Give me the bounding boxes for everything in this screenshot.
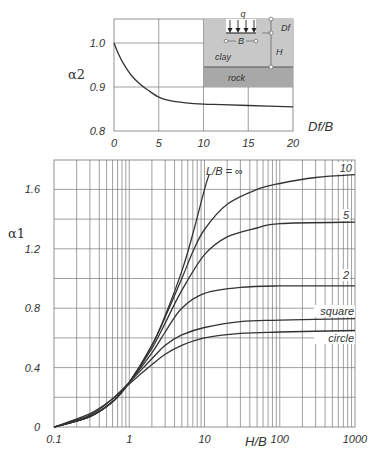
- inset-label-width: B: [238, 36, 244, 46]
- svg-text:10: 10: [197, 137, 210, 149]
- curve-label: 2: [342, 269, 349, 281]
- curve-label: circle: [328, 332, 354, 344]
- svg-text:0.1: 0.1: [46, 433, 61, 445]
- svg-text:1.6: 1.6: [25, 183, 41, 195]
- inset-label-soil: clay: [215, 52, 232, 62]
- svg-text:10: 10: [198, 433, 211, 445]
- inset-label-thickness: H: [276, 47, 283, 57]
- curve-label: 5: [343, 209, 350, 221]
- curve-label: L/B = ∞: [206, 165, 243, 177]
- svg-text:15: 15: [242, 137, 255, 149]
- curve-label: square: [320, 305, 354, 317]
- foundation-inset-diagram: B q Df H clay rock: [204, 9, 293, 87]
- alpha2-xlabel: Df/B: [308, 119, 334, 134]
- alpha1-ylabel: α1: [8, 226, 25, 241]
- svg-text:20: 20: [286, 137, 300, 149]
- alpha2-chart: B q Df H clay rock 051015200.80.91.0 α2 …: [68, 9, 334, 149]
- alpha1-chart: L/B = ∞1052squarecircle 0.1110100100000.…: [8, 160, 368, 449]
- svg-text:0.9: 0.9: [90, 81, 105, 93]
- inset-label-base: rock: [228, 73, 246, 83]
- figure: B q Df H clay rock 051015200.80.91.0 α2 …: [0, 0, 380, 461]
- inset-label-load: q: [240, 9, 245, 19]
- curve-label: 10: [340, 162, 353, 174]
- svg-text:0.8: 0.8: [25, 302, 41, 314]
- inset-label-depth: Df: [281, 23, 291, 33]
- alpha2-ylabel: α2: [68, 67, 85, 82]
- svg-text:1.0: 1.0: [90, 37, 106, 49]
- svg-text:100: 100: [271, 433, 290, 445]
- svg-text:1: 1: [126, 433, 132, 445]
- svg-text:0.4: 0.4: [25, 362, 40, 374]
- alpha1-xlabel: H/B: [245, 434, 267, 449]
- svg-text:1000: 1000: [343, 433, 368, 445]
- svg-text:1.2: 1.2: [25, 243, 40, 255]
- svg-text:0.8: 0.8: [90, 125, 106, 137]
- svg-text:0: 0: [34, 421, 41, 433]
- svg-text:0: 0: [111, 137, 118, 149]
- svg-text:5: 5: [156, 137, 163, 149]
